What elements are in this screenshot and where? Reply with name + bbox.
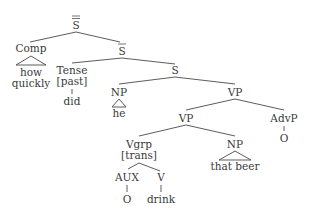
tense-word-did: did xyxy=(64,95,81,107)
edge-vgrp-v xyxy=(139,163,160,171)
node-vp-inner: VP xyxy=(178,112,194,124)
edge-sbar-tense xyxy=(72,58,122,63)
np2-words: that beer xyxy=(211,160,261,172)
node-vp-top: VP xyxy=(227,86,243,98)
node-s: S xyxy=(171,64,178,76)
node-aux: AUX xyxy=(114,171,139,183)
v-word-drink: drink xyxy=(147,193,176,205)
edge-root-sbar xyxy=(76,32,120,42)
np1-word-he: he xyxy=(113,107,126,119)
comp-word-quickly: quickly xyxy=(12,77,50,89)
edge-s-vp xyxy=(175,77,235,84)
np2-triangle xyxy=(219,151,251,160)
advp-word-o: O xyxy=(280,132,289,144)
edge-vp-vp xyxy=(186,99,235,110)
node-comp: Comp xyxy=(15,42,46,54)
np1-triangle xyxy=(112,99,126,107)
node-sbar: S xyxy=(118,45,125,57)
edge-vp-advp xyxy=(235,99,284,110)
edge-sbar-s xyxy=(122,58,175,64)
node-v: V xyxy=(156,171,165,183)
aux-word-o: O xyxy=(123,193,132,205)
syntax-tree: S Comp how quickly S Tense [past] did S … xyxy=(0,0,312,220)
edge-vp-np2 xyxy=(186,125,235,136)
edge-vp-vgrp xyxy=(139,125,186,136)
tense-feature: [past] xyxy=(57,75,88,87)
comp-triangle xyxy=(16,56,46,65)
node-advp: AdvP xyxy=(269,112,297,124)
edge-vgrp-aux xyxy=(128,163,139,169)
edge-root-comp xyxy=(30,32,76,42)
node-np1: NP xyxy=(111,86,127,98)
edge-s-np1 xyxy=(119,77,175,84)
node-np2: NP xyxy=(227,138,243,150)
node-root-s: S xyxy=(72,19,79,31)
vgrp-feature: [trans] xyxy=(121,149,157,161)
